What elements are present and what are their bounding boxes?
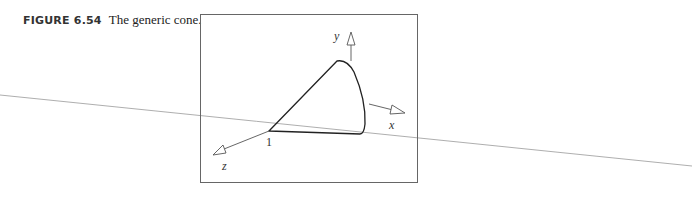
cone-outline xyxy=(269,61,365,134)
x-axis xyxy=(369,104,393,110)
x-axis-arrow-icon xyxy=(390,105,405,114)
figure-frame xyxy=(201,15,418,183)
apex-label: 1 xyxy=(266,135,272,149)
y-axis-label: y xyxy=(333,29,340,43)
z-axis-arrow-icon xyxy=(213,145,226,155)
z-axis-label: z xyxy=(221,159,227,173)
z-axis xyxy=(224,131,269,149)
x-axis-label: x xyxy=(388,118,395,132)
diagonal-line xyxy=(0,95,692,166)
y-axis-arrow-icon xyxy=(347,32,355,45)
cone-figure: y x z 1 xyxy=(0,0,692,202)
